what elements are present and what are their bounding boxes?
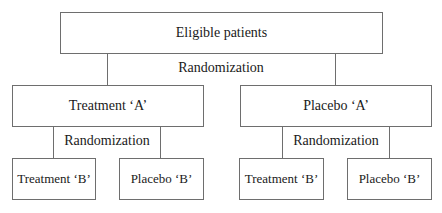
eligible-patients-box: Eligible patients: [60, 12, 383, 54]
placebo-b-label-left: Placebo ‘B’: [131, 171, 193, 187]
placebo-a-box: Placebo ‘A’: [240, 85, 432, 127]
treatment-b-box-left: Treatment ‘B’: [12, 158, 96, 200]
first-randomization-label: Randomization: [178, 60, 264, 76]
connector-placebo-a-to-treatment-b: [282, 126, 283, 159]
connector-treatment-a-to-treatment-b: [53, 126, 54, 159]
connector-root-to-treatment-a: [107, 53, 108, 86]
placebo-b-box-right: Placebo ‘B’: [347, 158, 432, 200]
treatment-a-label: Treatment ‘A’: [69, 98, 147, 114]
second-randomization-label-right: Randomization: [293, 133, 379, 149]
eligible-patients-label: Eligible patients: [176, 25, 267, 41]
connector-root-to-placebo-a: [335, 53, 336, 86]
treatment-b-box-right: Treatment ‘B’: [239, 158, 324, 200]
connector-placebo-a-to-placebo-b: [389, 126, 390, 159]
treatment-b-label-right: Treatment ‘B’: [245, 171, 319, 187]
treatment-a-box: Treatment ‘A’: [12, 85, 204, 127]
treatment-b-label-left: Treatment ‘B’: [17, 171, 91, 187]
placebo-b-box-left: Placebo ‘B’: [119, 158, 204, 200]
placebo-b-label-right: Placebo ‘B’: [359, 171, 421, 187]
second-randomization-label-left: Randomization: [64, 133, 150, 149]
placebo-a-label: Placebo ‘A’: [303, 98, 369, 114]
connector-treatment-a-to-placebo-b: [160, 126, 161, 159]
